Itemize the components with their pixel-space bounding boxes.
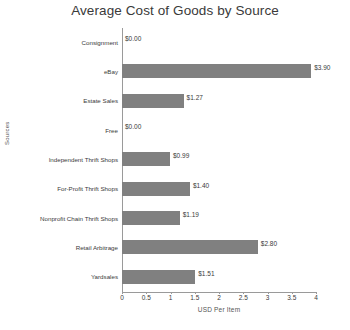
bar-value-label: $1.40 <box>193 183 209 190</box>
bar-row: $1.27 <box>122 87 316 116</box>
category-label: Independent Thrift Shops <box>0 157 118 163</box>
bar-row: $0.00 <box>122 116 316 145</box>
category-label: Nonprofit Chain Thrift Shops <box>0 216 118 222</box>
bar <box>122 94 184 108</box>
bar-row: $3.90 <box>122 57 316 86</box>
x-axis-title: USD Per Item <box>122 306 316 313</box>
bar-value-label: $0.99 <box>173 153 189 160</box>
bar-value-label: $2.80 <box>261 241 277 248</box>
bar <box>122 152 170 166</box>
category-label: eBay <box>0 69 118 75</box>
category-label: Free <box>0 128 118 134</box>
bar-row: $0.99 <box>122 145 316 174</box>
category-label: Retail Arbitrage <box>0 245 118 251</box>
bar-value-label: $1.51 <box>198 271 214 278</box>
category-label: Estate Sales <box>0 98 118 104</box>
bar-value-label: $3.90 <box>314 65 330 72</box>
bar-value-label: $0.00 <box>125 36 141 43</box>
bar <box>122 270 195 284</box>
bar <box>122 240 258 254</box>
bar-row: $1.40 <box>122 175 316 204</box>
bar-value-label: $1.19 <box>183 212 199 219</box>
bar-value-label: $0.00 <box>125 124 141 131</box>
category-label: Yardsales <box>0 274 118 280</box>
bar-chart: Average Cost of Goods by Source Sources … <box>0 0 350 330</box>
category-label: For-Profit Thrift Shops <box>0 186 118 192</box>
bar-row: $1.51 <box>122 263 316 292</box>
bar <box>122 64 311 78</box>
x-tick-label: 4 <box>301 295 331 302</box>
bar <box>122 182 190 196</box>
bar-row: $1.19 <box>122 204 316 233</box>
chart-title: Average Cost of Goods by Source <box>0 3 350 18</box>
bar-value-label: $1.27 <box>187 95 203 102</box>
bar <box>122 211 180 225</box>
bar-row: $0.00 <box>122 28 316 57</box>
bar-row: $2.80 <box>122 233 316 262</box>
category-label: Consignment <box>0 40 118 46</box>
plot-area: $0.00$3.90$1.27$0.00$0.99$1.40$1.19$2.80… <box>122 28 316 292</box>
